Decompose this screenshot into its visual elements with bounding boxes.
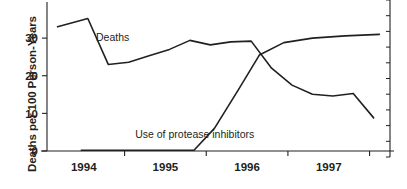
y-axis-title: Deaths per 100 Person-Years — [26, 0, 44, 189]
x-tick-label-group: 1994199519961997 — [71, 161, 342, 173]
annotation-deaths: Deaths — [96, 31, 129, 43]
x-tick-mark-group — [125, 151, 370, 156]
x-category-label: 1997 — [316, 161, 342, 173]
x-category-label: 1996 — [234, 161, 260, 173]
right-axis-tick-group — [386, 0, 390, 157]
x-category-label: 1994 — [71, 161, 97, 173]
chart-figure: Deaths per 100 Person-Years 0102030 1994… — [0, 0, 407, 189]
annotation-protease-inhibitors: Use of protease inhibitors — [135, 128, 254, 140]
x-category-label: 1995 — [153, 161, 179, 173]
chart-plot-area: 0102030 1994199519961997 DeathsUse of pr… — [0, 0, 407, 189]
y-axis-title-wrap: Deaths per 100 Person-Years — [0, 0, 22, 189]
